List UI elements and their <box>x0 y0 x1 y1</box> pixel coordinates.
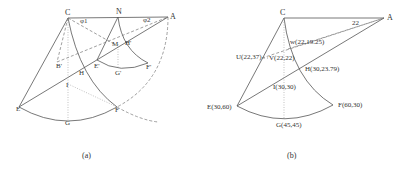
label-W-b: w(22,19.25) <box>290 39 324 46</box>
arc-EF-b <box>237 105 333 119</box>
arc-E-prime-F-prime <box>97 60 148 68</box>
label-H-b: H(30,23.79) <box>305 66 339 73</box>
label-C-b: C <box>280 9 285 17</box>
figure: C N A φ1 φ2 B' M H' E' G' F' H I E G F (… <box>0 0 405 170</box>
panel-a-drawing <box>0 0 405 170</box>
label-I-b: I(30,30) <box>273 84 296 91</box>
dashed-arc-AF <box>117 17 168 107</box>
label-G-b: G(45,45) <box>276 122 301 129</box>
label-U-b: U(22,37) <box>236 54 261 61</box>
label-phi2-a: φ2 <box>143 17 151 24</box>
caption-b: (b) <box>287 152 296 160</box>
label-A-b: A <box>387 14 393 22</box>
label-V-b: V(22,22) <box>269 55 294 62</box>
label-I-a: I <box>66 82 68 89</box>
label-C-a: C <box>65 9 70 17</box>
dashed-CB <box>57 18 68 62</box>
label-H-a: H <box>79 70 84 77</box>
label-M-a: M <box>112 41 118 48</box>
segment-EA-b <box>237 18 384 106</box>
label-E-b: E(30,60) <box>207 104 232 111</box>
segment-EC-b <box>237 18 284 106</box>
label-N-a: N <box>116 8 122 16</box>
label-A-a: A <box>170 13 176 21</box>
label-G-a: G <box>65 120 70 127</box>
label-E-a: E <box>16 106 20 113</box>
label-H-prime-a: H' <box>125 40 131 47</box>
dashed-arc-F-out <box>117 107 158 122</box>
label-F-prime-a: F' <box>146 64 151 71</box>
label-B-prime-a: B' <box>56 63 62 70</box>
caption-a: (a) <box>82 152 91 160</box>
label-E-prime-a: E' <box>94 63 100 70</box>
label-G-prime-a: G' <box>115 70 121 77</box>
label-F-a: F <box>115 107 119 114</box>
label-phi1-a: φ1 <box>80 18 88 25</box>
dotted-IF <box>68 84 117 107</box>
label-angle-b: 22 <box>352 20 359 27</box>
label-F-b: F(60,30) <box>338 102 362 109</box>
